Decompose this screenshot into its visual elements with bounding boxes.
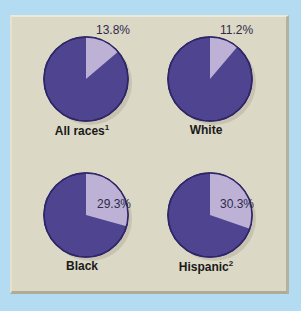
label-black: Black [12,259,152,273]
pct-label-white: 11.2% [220,23,253,37]
label-all-races: All races1 [12,123,152,138]
pct-label-black: 29.3% [97,197,131,211]
pct-label-hispanic: 30.3% [220,197,254,211]
pie-white: 11.2% White [136,17,276,153]
pie-all-races: 13.8% All races1 [12,17,152,153]
label-white: White [136,123,276,137]
pct-label-all-races: 13.8% [96,23,130,37]
pie-black: 29.3% Black [12,153,152,289]
chart-panel: 13.8% All races1 11.2% White 29.3% Black… [10,15,289,294]
label-hispanic: Hispanic2 [136,259,276,274]
pie-hispanic: 30.3% Hispanic2 [136,153,276,289]
